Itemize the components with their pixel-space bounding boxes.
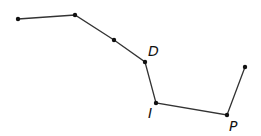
polyline-path — [18, 15, 245, 115]
vertices — [16, 13, 247, 117]
vertex-P — [225, 113, 229, 117]
vertex-1 — [16, 17, 20, 21]
label-I: I — [148, 105, 152, 121]
vertex-D — [143, 60, 147, 64]
vertex-3 — [112, 38, 116, 42]
vertex-I — [154, 101, 158, 105]
label-P: P — [229, 118, 238, 134]
vertex-2 — [73, 13, 77, 17]
polyline-diagram: D I P — [0, 0, 261, 136]
label-D: D — [148, 43, 159, 59]
vertex-7 — [243, 65, 247, 69]
